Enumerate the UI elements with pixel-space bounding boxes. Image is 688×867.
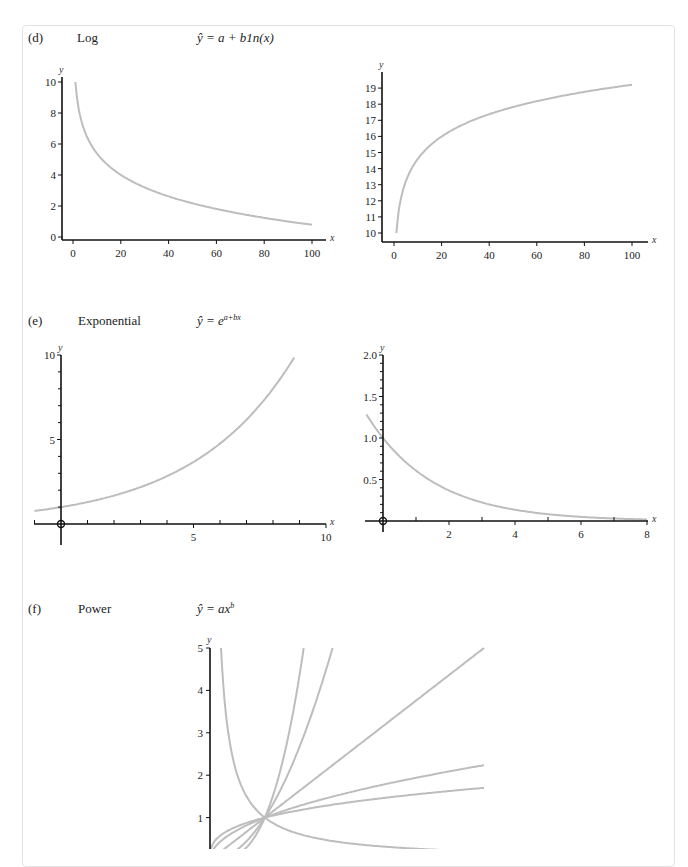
y-axis-label: y <box>57 342 63 353</box>
y-tick-label: 0.5 <box>363 474 377 486</box>
y-axis-label: y <box>206 634 212 645</box>
y-tick-label: 6 <box>51 138 57 150</box>
y-tick-label: 16 <box>365 130 377 142</box>
x-tick-label: 100 <box>624 249 641 261</box>
power-curve <box>211 648 333 849</box>
y-tick-label: 14 <box>365 163 377 175</box>
power-curve <box>211 788 485 849</box>
y-tick-label: 8 <box>51 107 57 119</box>
y-tick-label: 15 <box>365 147 377 159</box>
x-axis-label: x <box>329 232 335 243</box>
data-curve <box>396 85 632 233</box>
y-tick-label: 2.0 <box>363 349 377 361</box>
y-tick-label: 17 <box>365 114 377 126</box>
y-tick-label: 1.5 <box>363 391 377 403</box>
x-tick-label: 2 <box>446 528 452 540</box>
chart-e-left: 510510yx <box>34 342 335 545</box>
y-tick-label: 18 <box>365 98 377 110</box>
power-curve <box>211 648 485 849</box>
y-tick-label: 12 <box>365 195 376 207</box>
x-tick-label: 80 <box>579 249 591 261</box>
y-tick-label: 2 <box>51 200 57 212</box>
y-tick-label: 13 <box>365 179 377 191</box>
y-tick-label: 2 <box>198 769 204 781</box>
y-tick-label: 3 <box>198 727 204 739</box>
x-tick-label: 4 <box>512 528 518 540</box>
data-curve <box>367 414 648 519</box>
x-tick-label: 6 <box>578 528 584 540</box>
y-tick-label: 10 <box>44 349 56 361</box>
data-curve <box>35 357 295 511</box>
y-tick-label: 11 <box>365 211 376 223</box>
x-tick-label: 60 <box>531 249 543 261</box>
y-axis-label: y <box>379 342 385 353</box>
data-curve <box>75 82 312 225</box>
x-axis-label: x <box>651 234 657 245</box>
chart-e-right: 0.51.01.52.02468yx <box>363 342 657 540</box>
x-tick-label: 40 <box>484 249 496 261</box>
y-tick-label: 5 <box>50 434 56 446</box>
x-tick-label: 0 <box>391 249 397 261</box>
x-tick-label: 20 <box>436 249 448 261</box>
y-tick-label: 19 <box>365 82 377 94</box>
y-tick-label: 4 <box>51 169 57 181</box>
chart-d-right: 10111213141516171819020406080100yx <box>365 59 657 261</box>
x-axis-label: x <box>329 516 335 527</box>
x-tick-label: 10 <box>321 531 333 543</box>
y-tick-label: 1.0 <box>363 432 377 444</box>
x-tick-label: 80 <box>259 247 271 259</box>
y-tick-label: 10 <box>365 227 377 239</box>
x-tick-label: 20 <box>115 247 127 259</box>
x-tick-label: 5 <box>191 531 197 543</box>
y-tick-label: 0 <box>51 231 57 243</box>
x-axis-label: x <box>651 513 657 524</box>
x-tick-label: 8 <box>644 528 650 540</box>
x-tick-label: 100 <box>304 247 321 259</box>
x-tick-label: 60 <box>211 247 223 259</box>
y-axis-label: y <box>378 59 384 70</box>
chart-d-left: 0246810020406080100yx <box>45 64 335 259</box>
y-tick-label: 4 <box>198 684 204 696</box>
y-tick-label: 1 <box>198 812 204 824</box>
x-tick-label: 40 <box>163 247 175 259</box>
x-tick-label: 0 <box>70 247 76 259</box>
chart-f: 12345y <box>198 634 485 849</box>
y-axis-label: y <box>58 64 64 75</box>
y-tick-label: 10 <box>45 76 57 88</box>
y-tick-label: 5 <box>198 642 204 654</box>
